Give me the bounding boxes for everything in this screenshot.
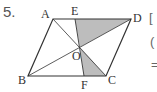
- label-o: O: [72, 49, 81, 63]
- label-a: A: [41, 7, 50, 21]
- cut-off-text-2: (: [150, 34, 154, 49]
- label-d: D: [133, 11, 142, 25]
- label-f: F: [81, 78, 88, 92]
- label-e: E: [71, 4, 78, 18]
- cut-off-text-3: =: [151, 57, 157, 72]
- label-c: C: [108, 73, 116, 87]
- parallelogram-diagram: A E D O B F C: [0, 0, 157, 92]
- label-b: B: [18, 73, 26, 87]
- cut-off-text-1: [: [149, 10, 153, 25]
